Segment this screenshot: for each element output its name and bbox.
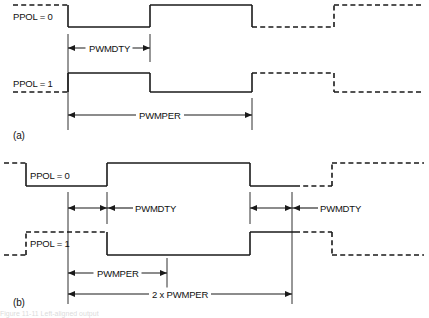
figure-caption-fragment: Figure 11-11 Left-aligned output <box>0 310 280 318</box>
measure-label-b-pwmdty-first: PWMDTY <box>135 203 176 214</box>
measure-label-b-pwmper: PWMPER <box>97 268 139 279</box>
arrow-head-right-a-duty <box>143 45 150 51</box>
arrow-head-leader-b-duty-2 <box>293 205 300 211</box>
arrow-head-leader-b-duty-1 <box>108 205 115 211</box>
panel-label-a: (a) <box>13 130 25 141</box>
arrow-head-left-b-double-period <box>68 291 75 297</box>
signal-label-a-ppol0: PPOL = 0 <box>13 11 53 22</box>
measure-label-b-double-pwmper: 2 x PWMPER <box>152 289 208 300</box>
arrow-head-right-a-period <box>245 112 252 118</box>
measure-label-a-pwmdty: PWMDTY <box>89 43 130 54</box>
arrow-head-left-a-period <box>68 112 75 118</box>
arrow-head-left-b-duty-2 <box>250 205 257 211</box>
signal-label-b-ppol1: PPOL = 1 <box>30 238 70 249</box>
measure-label-b-pwmdty-second: PWMDTY <box>320 203 361 214</box>
arrow-head-left-b-period <box>68 270 75 276</box>
signal-label-b-ppol0: PPOL = 0 <box>30 170 70 181</box>
pwm-timing-figure: PPOL = 0 PPOL = 1 PWMDTY PWMPER (a) PPOL… <box>0 0 429 318</box>
measure-label-a-pwmper: PWMPER <box>139 110 181 121</box>
signal-label-a-ppol1: PPOL = 1 <box>13 78 53 89</box>
arrow-head-left-a-duty <box>68 45 75 51</box>
waveform-canvas <box>0 0 429 318</box>
arrow-head-right-b-duty-1 <box>100 205 107 211</box>
arrow-head-right-b-double-period <box>285 291 292 297</box>
arrow-head-right-b-duty-2 <box>285 205 292 211</box>
arrow-head-right-b-period <box>160 270 167 276</box>
arrow-head-left-b-duty-1 <box>68 205 75 211</box>
panel-label-b: (b) <box>13 297 25 308</box>
